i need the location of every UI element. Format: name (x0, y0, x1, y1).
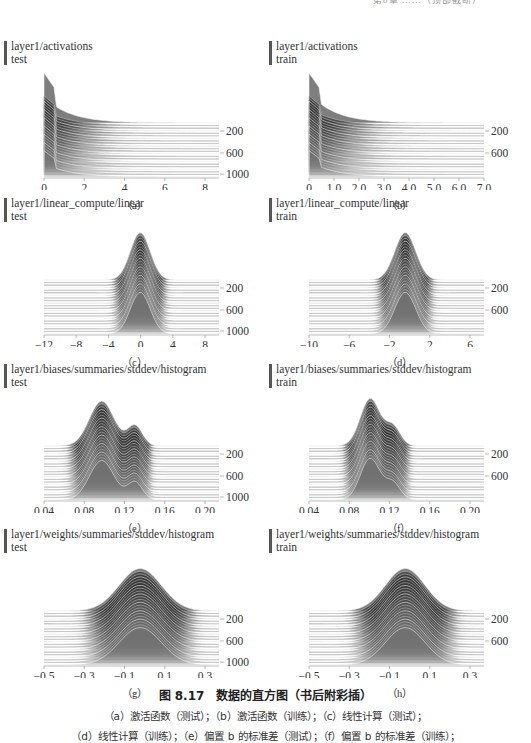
x-tick-label: 0.04 (34, 505, 54, 513)
x-tick-label: −2 (383, 339, 395, 347)
x-tick-label: 6.0 (452, 182, 467, 190)
y-tick-label: 200 (491, 448, 509, 460)
x-tick-label: −0.3 (74, 670, 95, 678)
x-tick-label: 4.0 (402, 182, 417, 190)
x-tick-label: 0.20 (460, 505, 480, 513)
y-tick-label: 600 (226, 304, 244, 316)
x-tick-label: −6 (343, 339, 355, 347)
y-tick-label: 200 (491, 613, 509, 625)
x-tick-label: 0.04 (299, 505, 319, 513)
x-tick-label: −10 (300, 339, 318, 347)
histogram-panel-f: layer1/biases/summaries/stddev/histogram… (269, 363, 531, 523)
histogram-panel-e: layer1/biases/summaries/stddev/histogram… (4, 363, 269, 523)
x-tick-label: −0.1 (114, 670, 135, 678)
x-tick-label: 0.1 (158, 670, 173, 678)
x-tick-label: −4 (102, 339, 114, 347)
y-tick-label: 600 (491, 635, 509, 647)
x-tick-label: 0.08 (339, 505, 359, 513)
x-tick-label: 2 (427, 339, 433, 347)
histogram-plot: 0.040.080.120.160.202006001000 (4, 363, 269, 513)
histogram-plot: 01.02.03.04.05.06.07.0200600 (269, 40, 531, 190)
y-tick-label: 200 (226, 282, 244, 294)
x-tick-label: 0.08 (74, 505, 94, 513)
histogram-plot: −0.5−0.3−0.10.10.3200600 (269, 528, 531, 678)
y-tick-label: 200 (491, 282, 509, 294)
y-tick-label: 1000 (226, 325, 249, 337)
x-tick-label: 0 (138, 339, 144, 347)
x-tick-label: 7.0 (477, 182, 492, 190)
histogram-plot: −10−6−226200600 (269, 197, 531, 347)
x-tick-label: 0.16 (155, 505, 175, 513)
x-tick-label: 8 (202, 339, 208, 347)
x-tick-label: 6 (162, 182, 168, 190)
histogram-plot: −0.5−0.3−0.10.10.32006001000 (4, 528, 269, 678)
x-tick-label: 4 (170, 339, 176, 347)
y-tick-label: 600 (491, 147, 509, 159)
histogram-plot: 0.040.080.120.160.20200600 (269, 363, 531, 513)
x-tick-label: −12 (35, 339, 53, 347)
y-tick-label: 600 (226, 470, 244, 482)
histogram-panel-g: layer1/weights/summaries/stddev/histogra… (4, 528, 269, 688)
x-tick-label: 0.3 (198, 670, 213, 678)
x-tick-label: −0.1 (379, 670, 400, 678)
x-tick-label: −0.5 (299, 670, 320, 678)
x-tick-label: 0.12 (114, 505, 134, 513)
x-tick-label: 0.16 (420, 505, 440, 513)
y-tick-label: 600 (491, 304, 509, 316)
y-tick-label: 1000 (226, 656, 249, 668)
x-tick-label: 5.0 (427, 182, 442, 190)
running-head: 第8章 ……（顶部截断） (373, 0, 523, 6)
x-tick-label: 3.0 (377, 182, 392, 190)
x-tick-label: 8 (202, 182, 208, 190)
x-tick-label: 1.0 (327, 182, 342, 190)
y-tick-label: 1000 (226, 168, 249, 180)
y-tick-label: 200 (226, 125, 244, 137)
x-tick-label: 4 (122, 182, 128, 190)
histogram-panel-h: layer1/weights/summaries/stddev/histogra… (269, 528, 531, 688)
figure-description-line-2: （d）线性计算（训练）；（e）偏置 b 的标准差（测试）；（f）偏置 b 的标准… (0, 728, 531, 743)
x-tick-label: 0 (306, 182, 312, 190)
figure-title: 图 8.17 数据的直方图（书后附彩插） (0, 686, 531, 703)
x-tick-label: 0 (41, 182, 47, 190)
y-tick-label: 200 (226, 613, 244, 625)
x-tick-label: −8 (70, 339, 82, 347)
histogram-panel-c: layer1/linear_compute/lineartest−12−8−40… (4, 197, 269, 357)
x-tick-label: 0.12 (379, 505, 399, 513)
x-tick-label: 6 (467, 339, 473, 347)
x-tick-label: 2.0 (352, 182, 367, 190)
y-tick-label: 600 (491, 470, 509, 482)
x-tick-label: −0.3 (339, 670, 360, 678)
histogram-panel-a: layer1/activationstest024682006001000（a） (4, 40, 269, 200)
x-tick-label: 2 (81, 182, 87, 190)
histogram-panel-d: layer1/linear_compute/lineartrain−10−6−2… (269, 197, 531, 357)
y-tick-label: 200 (491, 125, 509, 137)
histogram-plot: −12−8−40482006001000 (4, 197, 269, 347)
y-tick-label: 600 (226, 635, 244, 647)
figure-description-line-1: （a）激活函数（测试）；（b）激活函数（训练）；（c）线性计算（测试）； (0, 708, 531, 723)
histogram-panel-b: layer1/activationstrain01.02.03.04.05.06… (269, 40, 531, 200)
x-tick-label: −0.5 (34, 670, 55, 678)
x-tick-label: 0.3 (463, 670, 478, 678)
y-tick-label: 200 (226, 448, 244, 460)
x-tick-label: 0.20 (195, 505, 215, 513)
x-tick-label: 0.1 (423, 670, 438, 678)
histogram-plot: 024682006001000 (4, 40, 269, 190)
y-tick-label: 600 (226, 147, 244, 159)
y-tick-label: 1000 (226, 491, 249, 503)
